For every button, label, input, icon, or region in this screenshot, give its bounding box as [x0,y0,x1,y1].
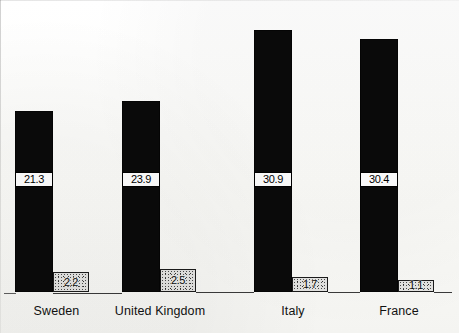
category-label-united-kingdom: United Kingdom [105,304,215,319]
category-label-france: France [364,304,434,319]
value-label-grey-united-kingdom: 2.5 [160,274,196,287]
category-label-sweden: Sweden [19,304,94,319]
value-label-grey-sweden: 2.2 [53,276,89,289]
bar-black-united-kingdom [122,101,160,292]
value-label-black-sweden: 21.3 [15,172,53,187]
category-label-italy: Italy [258,304,328,319]
bar-black-france [360,39,398,292]
axis-baseline-mid-1 [53,293,122,294]
value-label-grey-italy: 1.7 [292,278,328,291]
bar-black-sweden [15,111,53,292]
plot-area: 21.3 2.2 Sweden 23.9 2.5 United Kingdom … [0,0,459,333]
value-label-black-united-kingdom: 23.9 [122,172,160,187]
value-label-black-france: 30.4 [360,172,398,187]
value-label-black-italy: 30.9 [254,172,292,187]
chart-page: 21.3 2.2 Sweden 23.9 2.5 United Kingdom … [0,0,459,333]
bar-black-italy [254,30,292,292]
axis-baseline-mid-2 [196,292,254,293]
value-label-grey-france: 1.1 [398,279,434,292]
axis-baseline-left [4,293,16,294]
axis-baseline-right [434,292,452,293]
axis-baseline-mid-3 [328,292,360,293]
